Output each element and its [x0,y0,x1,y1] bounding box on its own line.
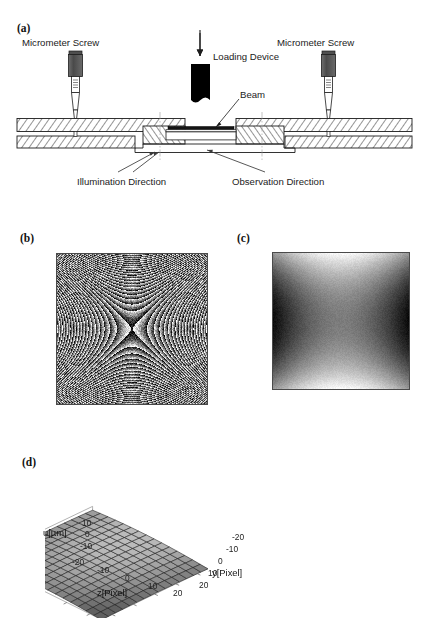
z-tick-3: 10 [148,582,157,590]
z-tick-4: 20 [173,589,182,597]
loading-device-graphic [191,30,210,103]
y-tick-0: -20 [232,533,244,541]
micrometer-screw-right-graphic [322,51,336,119]
u-tick-2: -10 [80,542,92,550]
illumination-direction-arrows [118,152,159,172]
panel-letter-c: (c) [237,232,250,244]
micrometer-screw-left-graphic [69,51,83,119]
figure-root: (a) Micrometer Screw Micrometer Screw Lo… [0,0,429,618]
axis-title-z: z[Pixel] [97,588,127,597]
y-tick-1: -10 [226,545,238,553]
panel-letter-d: (d) [22,456,36,468]
u-tick-1: 0 [85,530,90,538]
wrapped-phase-map [56,253,208,405]
y-tick-3: 10 [208,569,217,577]
y-tick-4: 20 [199,581,208,589]
unwrapped-phase-map [272,252,410,390]
z-tick-2: 0 [125,574,130,582]
z-tick-0: -20 [72,558,84,566]
panel-a-drawing [0,0,429,210]
z-tick-1: -10 [97,566,109,574]
axis-title-u: u[µm] [43,528,67,537]
panel-letter-b: (b) [20,232,34,244]
y-tick-2: 0 [218,557,223,565]
u-tick-0: 10 [82,519,91,527]
observation-direction-arrow [207,150,265,172]
